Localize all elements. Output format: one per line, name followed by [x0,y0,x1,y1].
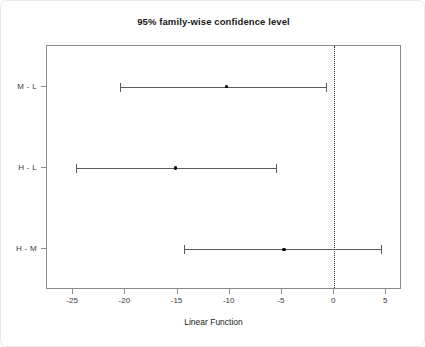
y-tick [41,167,46,168]
y-tick-label-h-l: H - L [18,163,37,172]
x-tick [124,289,125,294]
estimate-point [225,85,229,89]
interval-upper-cap [276,164,277,173]
interval-lower-cap [120,83,121,92]
chart-card: 95% family-wise confidence level -25-20-… [0,0,425,347]
x-tick [281,289,282,294]
interval-upper-cap [381,245,382,254]
interval-lower-cap [76,164,77,173]
x-tick [177,289,178,294]
y-tick [41,86,46,87]
estimate-point [174,166,178,170]
y-tick [41,248,46,249]
y-tick-label-h-m: H - M [16,244,37,253]
x-tick-label: 5 [383,296,387,305]
x-tick-label: -20 [119,296,131,305]
x-tick-label: 0 [331,296,335,305]
x-tick [385,289,386,294]
x-tick-label: -10 [223,296,235,305]
interval-lower-cap [184,245,185,254]
x-tick [333,289,334,294]
x-tick [72,289,73,294]
x-tick-label: -5 [277,296,284,305]
plot-area [46,45,401,289]
x-tick-label: -15 [171,296,183,305]
estimate-point [282,248,286,252]
x-tick-label: -25 [66,296,78,305]
zero-reference-line [334,46,335,288]
y-tick-label-m-l: M - L [17,81,37,90]
chart-title: 95% family-wise confidence level [1,16,425,27]
x-tick [229,289,230,294]
interval-line [120,87,326,88]
interval-upper-cap [326,83,327,92]
x-axis-label: Linear Function [1,317,425,327]
